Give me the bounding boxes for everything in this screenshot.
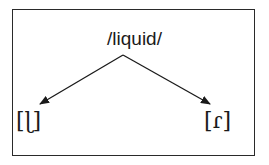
arrow-left xyxy=(40,55,123,104)
leaf-node-retroflex-l: [ɭ] xyxy=(16,108,41,133)
leaf-node-flap-r: [ɾ] xyxy=(204,108,231,133)
arrow-right xyxy=(123,55,210,104)
arrows xyxy=(0,0,269,165)
